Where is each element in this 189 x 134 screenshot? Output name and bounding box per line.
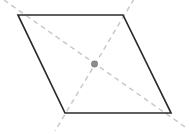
parallelogram-figure: [0, 0, 189, 134]
figure-canvas: [0, 0, 189, 134]
diagonal-intersection-dot: [91, 61, 97, 67]
